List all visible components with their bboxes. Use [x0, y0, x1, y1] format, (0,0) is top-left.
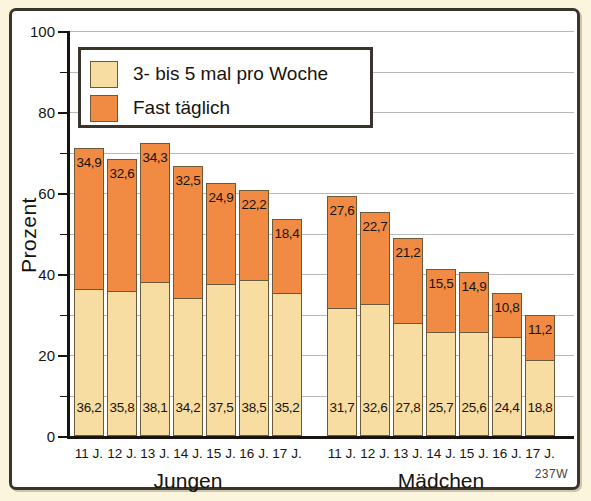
- x-axis-label: 17 J.: [261, 446, 313, 461]
- bar-segment-daily: 22,7: [360, 212, 390, 304]
- bar-stack: 32,534,2: [173, 166, 203, 436]
- bar-stack: 21,227,8: [393, 238, 423, 436]
- bar-segment-daily: 18,4: [272, 219, 302, 294]
- bar-value-daily: 11,2: [526, 322, 554, 337]
- y-axis-tick: [60, 72, 67, 73]
- bar-value-daily: 22,7: [361, 219, 389, 234]
- legend: 3- bis 5 mal pro Woche Fast täglich: [78, 47, 373, 128]
- bar-value-weekly: 27,8: [394, 400, 422, 415]
- bar-value-weekly: 35,2: [273, 400, 301, 415]
- bar-segment-daily: 11,2: [525, 315, 555, 360]
- bar-value-weekly: 38,1: [141, 400, 169, 415]
- y-axis-title: Prozent: [17, 197, 41, 273]
- bar-value-weekly: 25,7: [427, 400, 455, 415]
- bar-segment-weekly: 37,5: [206, 284, 236, 436]
- bar-stack: 15,525,7: [426, 269, 456, 436]
- bar-value-daily: 18,4: [273, 226, 301, 241]
- bar-value-weekly: 37,5: [207, 400, 235, 415]
- bar-segment-daily: 34,3: [140, 143, 170, 282]
- bar-segment-daily: 27,6: [327, 196, 357, 308]
- bar-stack: 11,218,8: [525, 315, 555, 436]
- bar-value-daily: 14,9: [460, 279, 488, 294]
- bar-value-weekly: 24,4: [493, 400, 521, 415]
- bar-value-weekly: 18,8: [526, 400, 554, 415]
- bar-value-daily: 21,2: [394, 245, 422, 260]
- legend-item-weekly: 3- bis 5 mal pro Woche: [90, 57, 370, 91]
- bar-value-daily: 27,6: [328, 203, 356, 218]
- bar-segment-weekly: 31,7: [327, 308, 357, 436]
- bar-value-weekly: 32,6: [361, 400, 389, 415]
- bar-stack: 22,238,5: [239, 190, 269, 436]
- bar-value-weekly: 36,2: [75, 400, 103, 415]
- bar-segment-weekly: 35,2: [272, 293, 302, 436]
- bar-segment-daily: 34,9: [74, 148, 104, 289]
- bar-segment-daily: 32,6: [107, 159, 137, 291]
- y-axis-tick: [60, 153, 67, 154]
- y-axis-tick: [58, 274, 67, 276]
- y-axis-line: [67, 31, 70, 439]
- chart-frame: Prozent 020406080100 34,936,232,635,834,…: [9, 8, 580, 490]
- y-axis-tick: [58, 112, 67, 114]
- bar-value-daily: 32,5: [174, 173, 202, 188]
- bar-stack: 14,925,6: [459, 272, 489, 436]
- bar-segment-weekly: 24,4: [492, 337, 522, 436]
- bar-value-weekly: 25,6: [460, 400, 488, 415]
- bar-segment-weekly: 32,6: [360, 304, 390, 436]
- bar-stack: 32,635,8: [107, 159, 137, 436]
- x-axis-line: [67, 436, 574, 439]
- legend-label-weekly: 3- bis 5 mal pro Woche: [133, 63, 328, 85]
- bar-segment-daily: 15,5: [426, 269, 456, 332]
- bar-segment-weekly: 25,7: [426, 332, 456, 436]
- y-axis-tick: [60, 315, 67, 316]
- legend-item-daily: Fast täglich: [90, 91, 370, 125]
- x-axis-label: 17 J.: [514, 446, 566, 461]
- bar-segment-weekly: 36,2: [74, 289, 104, 436]
- bar-segment-weekly: 34,2: [173, 298, 203, 437]
- bar-stack: 24,937,5: [206, 183, 236, 436]
- y-axis-tick-label: 0: [47, 428, 55, 445]
- bar-value-weekly: 34,2: [174, 400, 202, 415]
- bar-stack: 10,824,4: [492, 293, 522, 436]
- legend-swatch-daily: [90, 95, 118, 122]
- bar-value-daily: 34,3: [141, 150, 169, 165]
- legend-label-daily: Fast täglich: [133, 97, 230, 119]
- y-axis-tick: [58, 193, 67, 195]
- bar-segment-daily: 10,8: [492, 293, 522, 337]
- bar-segment-weekly: 18,8: [525, 360, 555, 436]
- bar-segment-weekly: 38,5: [239, 280, 269, 436]
- bar-value-daily: 32,6: [108, 166, 136, 181]
- bar-segment-daily: 14,9: [459, 272, 489, 332]
- bar-stack: 34,338,1: [140, 143, 170, 436]
- y-axis-tick: [58, 31, 67, 33]
- bar-segment-daily: 21,2: [393, 238, 423, 324]
- bar-value-weekly: 38,5: [240, 400, 268, 415]
- y-axis-tick-label: 60: [38, 185, 55, 202]
- bar-stack: 18,435,2: [272, 219, 302, 436]
- group-label-boys: Jungen: [154, 469, 223, 493]
- legend-swatch-weekly: [90, 61, 118, 88]
- bar-segment-weekly: 35,8: [107, 291, 137, 436]
- y-axis-tick: [60, 234, 67, 235]
- y-axis-tick: [58, 355, 67, 357]
- y-axis-tick: [60, 396, 67, 397]
- bar-stack: 22,732,6: [360, 212, 390, 436]
- bar-value-daily: 34,9: [75, 155, 103, 170]
- bar-value-daily: 15,5: [427, 276, 455, 291]
- bar-segment-weekly: 27,8: [393, 323, 423, 436]
- bar-value-weekly: 31,7: [328, 400, 356, 415]
- bar-value-daily: 24,9: [207, 190, 235, 205]
- bar-value-weekly: 35,8: [108, 400, 136, 415]
- plot-area: Prozent 020406080100 34,936,232,635,834,…: [67, 31, 574, 439]
- bar-stack: 34,936,2: [74, 148, 104, 436]
- bar-stack: 27,631,7: [327, 196, 357, 436]
- bar-segment-daily: 22,2: [239, 190, 269, 280]
- bar-segment-weekly: 38,1: [140, 282, 170, 436]
- y-axis-tick-label: 40: [38, 266, 55, 283]
- gridline: [70, 31, 574, 32]
- group-label-girls: Mädchen: [398, 469, 484, 493]
- y-axis-tick-label: 80: [38, 104, 55, 121]
- bar-segment-daily: 24,9: [206, 183, 236, 284]
- corner-code: 237W: [535, 467, 568, 481]
- y-axis-tick-label: 100: [30, 23, 55, 40]
- y-axis-tick-label: 20: [38, 347, 55, 364]
